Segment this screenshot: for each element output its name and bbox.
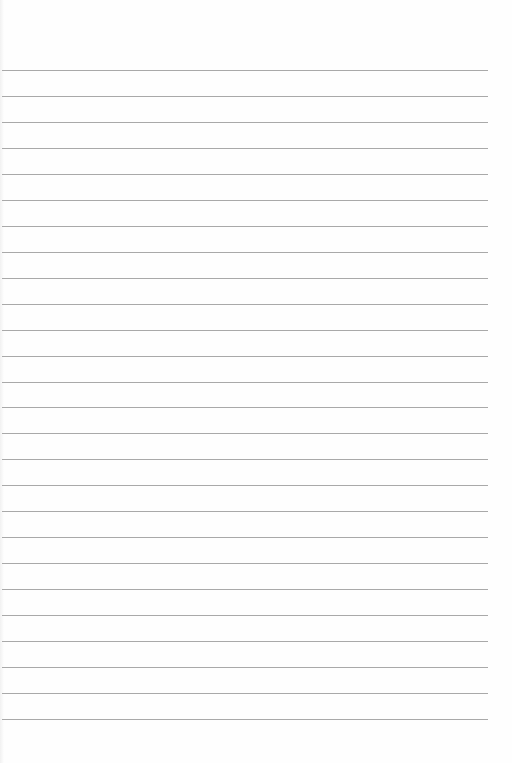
ruled-line bbox=[2, 96, 488, 97]
ruled-line bbox=[2, 200, 488, 201]
ruled-line bbox=[2, 148, 488, 149]
ruled-line bbox=[2, 641, 488, 642]
ruled-line bbox=[2, 330, 488, 331]
ruled-line bbox=[2, 459, 488, 460]
ruled-line bbox=[2, 615, 488, 616]
ruled-line bbox=[2, 407, 488, 408]
ruled-line bbox=[2, 693, 488, 694]
ruled-line bbox=[2, 382, 488, 383]
ruled-line bbox=[2, 511, 488, 512]
ruled-line bbox=[2, 122, 488, 123]
ruled-line bbox=[2, 589, 488, 590]
ruled-line bbox=[2, 563, 488, 564]
ruled-line bbox=[2, 278, 488, 279]
ruled-line bbox=[2, 226, 488, 227]
ruled-line bbox=[2, 304, 488, 305]
ruled-line bbox=[2, 356, 488, 357]
ruled-line bbox=[2, 537, 488, 538]
ruled-line bbox=[2, 667, 488, 668]
lined-paper-page bbox=[0, 0, 512, 763]
ruled-line bbox=[2, 433, 488, 434]
ruled-line bbox=[2, 174, 488, 175]
ruled-line bbox=[2, 70, 488, 71]
ruled-line bbox=[2, 485, 488, 486]
ruled-line bbox=[2, 252, 488, 253]
ruled-line bbox=[2, 719, 488, 720]
